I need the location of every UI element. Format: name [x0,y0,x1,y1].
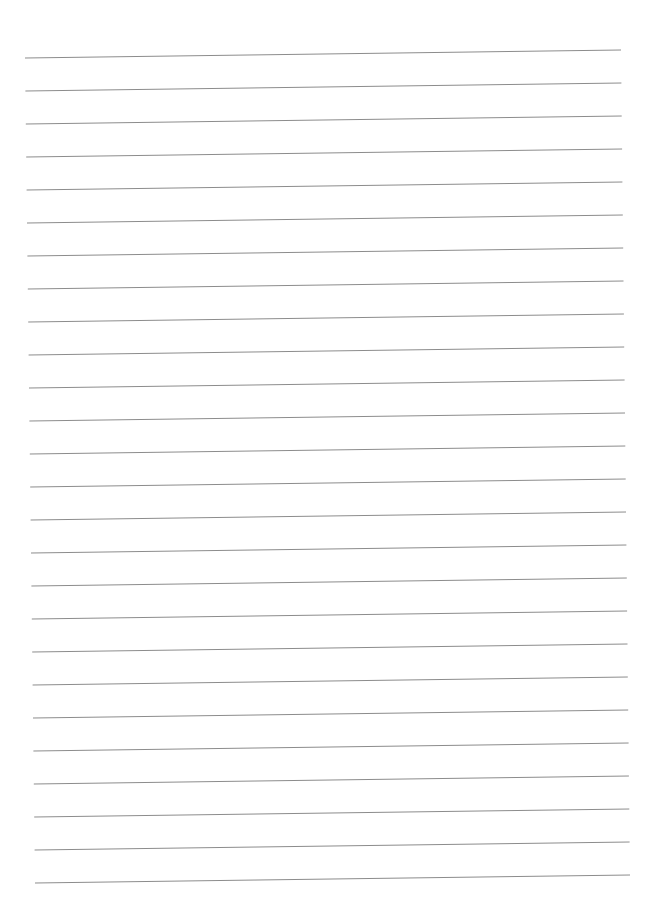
ruled-line [26,149,622,157]
ruled-line [34,809,629,817]
ruled-line [32,611,627,619]
ruled-line [29,380,625,388]
ruled-line [35,875,630,883]
ruled-line [33,710,628,718]
ruled-line [33,743,628,751]
ruled-line [29,347,625,355]
ruled-line [27,215,623,223]
ruled-line [26,116,622,124]
ruled-line [33,677,628,685]
ruled-line [31,512,626,520]
ruled-line [35,842,630,850]
lined-paper-page [0,0,647,906]
ruled-line [31,578,626,586]
ruled-line [28,281,624,289]
ruled-line [32,644,627,652]
ruled-lines [0,0,647,906]
ruled-line [27,248,623,256]
ruled-line [25,50,621,58]
ruled-line [31,545,626,553]
ruled-line [25,83,621,91]
ruled-line [30,479,626,487]
ruled-line [27,182,623,190]
ruled-line [34,776,629,784]
ruled-line [29,413,625,421]
ruled-line [28,314,624,322]
ruled-line [30,446,626,454]
